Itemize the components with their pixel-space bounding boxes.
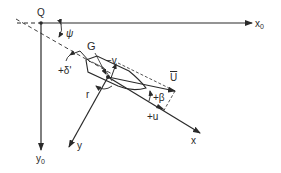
body-y-axis — [69, 77, 108, 147]
heading-angle-label: ψ — [66, 29, 73, 39]
surge-velocity-label: +u — [147, 112, 158, 122]
x0-axis-label: x0 — [255, 19, 264, 29]
diagram-canvas — [0, 0, 281, 173]
y0-axis-label: y0 — [36, 154, 45, 164]
origin-point — [39, 21, 43, 25]
body-y-axis-label: y — [77, 141, 82, 151]
sway-velocity-label: −v — [106, 56, 117, 66]
yaw-rate-arc — [96, 86, 112, 89]
sway-velocity-arrow — [111, 64, 116, 78]
drift-angle-arc — [149, 91, 150, 101]
velocity-component-dash-1 — [118, 63, 175, 91]
drift-angle-label: +β — [153, 93, 165, 103]
y0-axis-subscript: 0 — [41, 158, 45, 165]
body-x-axis-label: x — [191, 136, 196, 146]
yaw-rate-label: r — [86, 90, 89, 100]
body-x-axis — [108, 77, 200, 133]
g-leader-line — [95, 53, 106, 74]
center-of-gravity-label: G — [87, 41, 96, 52]
heading-angle-arc — [59, 24, 62, 37]
origin-label: Q — [37, 8, 45, 18]
velocity-label: U — [170, 73, 177, 83]
x0-axis-subscript: 0 — [260, 23, 264, 30]
ship-coordinate-diagram: Q x0 y0 ψ +δ' G −v r U +β +u x y — [0, 0, 281, 173]
rudder-angle-label: +δ' — [58, 66, 71, 76]
